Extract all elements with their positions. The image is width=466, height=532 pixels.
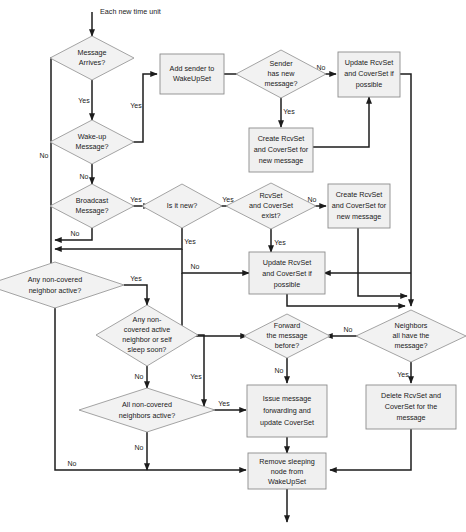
node-issue-forward-line-1: forwarding and xyxy=(263,406,311,415)
node-forward-before-line-1: the message xyxy=(266,331,307,340)
node-create-coverset-2-line-0: Create RcvSet xyxy=(336,190,383,199)
node-rcvset-exist-line-1: and CoverSet xyxy=(249,201,293,210)
edge-label-senderhasnew-yes: Yes xyxy=(283,108,295,115)
node-remove-sleeping-line-1: node from xyxy=(271,467,303,476)
node-message-arrives[interactable]: Message Arrives? xyxy=(50,36,134,80)
node-add-sender-line-0: Add sender to xyxy=(170,64,215,73)
node-create-coverset-2-line-2: new message xyxy=(337,212,381,221)
node-remove-sleeping-node[interactable]: Remove sleeping node from WakeUpSet xyxy=(248,453,326,489)
node-neighbors-have-line-1: all have the xyxy=(393,331,430,340)
node-is-it-new-line-0: Is it new? xyxy=(167,201,197,210)
node-update-coverset-2-line-1: and CoverSet if xyxy=(262,269,312,278)
node-wakeup-message-line-0: Wake-up xyxy=(78,132,107,141)
node-broadcast-message-line-0: Broadcast xyxy=(76,196,108,205)
node-forward-before-line-2: before? xyxy=(275,341,299,350)
node-create-coverset-1-line-1: and CoverSet for xyxy=(254,145,309,154)
edge-label-msg-arrives-yes: Yes xyxy=(78,97,90,104)
node-create-coverset-1-line-0: Create RcvSet xyxy=(258,134,305,143)
node-update-coverset-2-line-2: possible xyxy=(274,280,300,289)
edge-label-isitnew-yes: Yes xyxy=(222,196,234,203)
node-add-sender[interactable]: Add sender to WakeUpSet xyxy=(160,54,224,94)
node-update-coverset-2-line-0: Update RcvSet xyxy=(263,258,311,267)
node-issue-message-forwarding[interactable]: Issue message forwarding and update Cove… xyxy=(247,385,327,437)
edge-label-anynoncov-no: No xyxy=(68,460,77,467)
edge-anynoncovsleep-yes xyxy=(185,335,204,406)
edge-label-wakeup-yes: Yes xyxy=(130,102,142,109)
node-any-noncovered-sleep-line-1: covered active xyxy=(124,325,170,334)
node-any-noncovered-sleep-line-2: neighbor or self xyxy=(122,335,172,344)
edge-label-anynoncovsleep-yes: Yes xyxy=(190,373,202,380)
node-wakeup-message-line-1: Message? xyxy=(75,142,108,151)
node-any-noncovered-neighbor-active[interactable]: Any non-covered neighbor active? xyxy=(0,262,124,308)
node-any-noncovered-line-1: neighbor active? xyxy=(29,286,82,295)
edge-label-isitnew-no: No xyxy=(191,263,200,270)
node-create-coverset-1[interactable]: Create RcvSet and CoverSet for new messa… xyxy=(249,128,313,172)
node-any-noncovered-sleep-line-3: sleep soon? xyxy=(128,345,167,354)
node-forward-message-before[interactable]: Forward the message before? xyxy=(244,314,330,358)
node-neighbors-have-line-0: Neighbors xyxy=(395,321,428,330)
node-rcvset-exist-line-0: RcvSet xyxy=(259,191,282,200)
flowchart-svg: Yes No Yes No No Yes Yes No Yes Yes No N… xyxy=(0,0,466,532)
node-delete-rcvset-coverset[interactable]: Delete RcvSet and CoverSet for the messa… xyxy=(366,385,456,429)
node-update-coverset-1-line-0: Update RcvSet xyxy=(345,58,393,67)
node-update-coverset-1-line-2: possible xyxy=(356,80,382,89)
edge-left-into-forwardbefore xyxy=(182,273,247,336)
edge-label-wakeup-no: No xyxy=(80,173,89,180)
edge-label-broadcast-yes: Yes xyxy=(130,196,142,203)
node-delete-sets-line-1: CoverSet for the xyxy=(385,402,437,411)
edge-createcover1-to-updatecover1 xyxy=(313,97,369,147)
node-issue-forward-line-2: update CoverSet xyxy=(260,418,314,427)
node-remove-sleeping-line-2: WakeUpSet xyxy=(268,477,306,486)
edge-label-forwardbefore-no: No xyxy=(275,367,284,374)
node-update-coverset-1-line-1: and CoverSet if xyxy=(344,69,394,78)
node-all-noncovered-neighbors-active[interactable]: All non-covered neighbors active? xyxy=(79,388,215,432)
node-delete-sets-line-2: message xyxy=(396,413,425,422)
node-sender-has-new-line-2: message? xyxy=(264,79,297,88)
node-create-coverset-2[interactable]: Create RcvSet and CoverSet for new messa… xyxy=(328,184,390,228)
node-rcvset-exist-line-2: exist? xyxy=(262,211,281,220)
node-create-coverset-2-line-1: and CoverSet for xyxy=(332,201,387,210)
node-layer: Each new time unit Message Arrives? Wake… xyxy=(0,7,466,489)
node-any-noncovered-sleep-line-0: Any non- xyxy=(133,315,162,324)
node-all-noncovered-line-1: neighbors active? xyxy=(119,411,175,420)
edge-label-isitnew-loop-yes: Yes xyxy=(184,238,196,245)
edge-label-neighborshave-yes: Yes xyxy=(397,371,409,378)
edge-label-msg-arrives-no: No xyxy=(40,152,49,159)
node-message-arrives-line-0: Message xyxy=(77,48,106,57)
edge-createcover2-to-trunk xyxy=(358,227,407,296)
edge-label-rcvsetexist-no: No xyxy=(308,196,317,203)
edge-updatecover1-trunk xyxy=(400,74,411,306)
node-broadcast-message[interactable]: Broadcast Message? xyxy=(50,184,134,228)
node-remove-sleeping-line-0: Remove sleeping xyxy=(259,457,315,466)
edge-deletesets-to-remove xyxy=(330,428,411,470)
node-delete-sets-line-0: Delete RcvSet and xyxy=(381,391,441,400)
node-broadcast-message-line-1: Message? xyxy=(75,206,108,215)
node-update-coverset-1[interactable]: Update RcvSet and CoverSet if possible xyxy=(338,52,400,97)
node-issue-forward-line-0: Issue message xyxy=(263,394,311,403)
flowchart-canvas: Yes No Yes No No Yes Yes No Yes Yes No N… xyxy=(0,0,466,532)
node-create-coverset-1-line-2: new message xyxy=(259,156,303,165)
start-label: Each new time unit xyxy=(100,7,161,16)
node-rcvset-exist[interactable]: RcvSet and CoverSet exist? xyxy=(226,183,316,229)
node-wakeup-message[interactable]: Wake-up Message? xyxy=(50,120,134,164)
node-sender-has-new-line-1: has new xyxy=(268,69,296,78)
edge-label-anynoncov-yes: Yes xyxy=(130,275,142,282)
edge-label-broadcast-no: No xyxy=(71,230,80,237)
node-neighbors-all-have-message[interactable]: Neighbors all have the message? xyxy=(356,310,466,362)
node-all-noncovered-line-0: All non-covered xyxy=(122,400,172,409)
edge-label-allnoncov-yes: Yes xyxy=(218,400,230,407)
edge-anynoncov-yes xyxy=(124,285,147,305)
edge-label-allnoncov-no: No xyxy=(135,444,144,451)
node-any-noncovered-line-0: Any non-covered xyxy=(28,275,82,284)
node-sender-has-new[interactable]: Sender has new message? xyxy=(236,50,326,98)
edge-msg-arrives-no xyxy=(51,58,62,278)
node-neighbors-have-line-2: message? xyxy=(394,341,427,350)
node-message-arrives-line-1: Arrives? xyxy=(79,58,105,67)
edge-label-anynoncovsleep-no: No xyxy=(135,373,144,380)
node-update-coverset-2[interactable]: Update RcvSet and CoverSet if possible xyxy=(249,252,325,294)
edge-label-rcvsetexist-yes: Yes xyxy=(274,239,286,246)
node-is-it-new[interactable]: Is it new? xyxy=(142,184,222,228)
node-add-sender-line-1: WakeUpSet xyxy=(173,74,211,83)
edge-label-neighborshave-no: No xyxy=(344,326,353,333)
node-forward-before-line-0: Forward xyxy=(274,321,300,330)
